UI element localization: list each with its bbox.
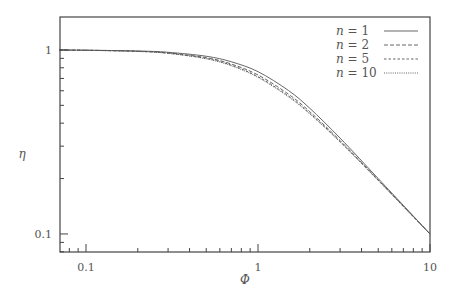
- legend-label-n10: n = 10: [336, 66, 377, 80]
- chart: 0.1110 0.11 Φ η n = 1n = 2n = 5n = 10: [0, 0, 456, 303]
- y-tick-label: 1: [45, 44, 52, 57]
- x-tick-label: 10: [423, 261, 437, 274]
- y-tick-label: 0.1: [35, 228, 53, 241]
- y-axis-label: η: [18, 147, 26, 161]
- x-axis-label: Φ: [240, 273, 250, 287]
- x-tick-label: 0.1: [77, 261, 95, 274]
- x-tick-label: 1: [255, 261, 262, 274]
- plot-frame: [60, 17, 430, 252]
- x-axis-ticks: 0.1110: [69, 244, 437, 274]
- legend-label-n5: n = 5: [336, 52, 369, 66]
- legend: n = 1n = 2n = 5n = 10: [336, 24, 418, 80]
- legend-label-n1: n = 1: [336, 24, 369, 38]
- legend-label-n2: n = 2: [336, 38, 369, 52]
- y-axis-ticks: 0.11: [35, 44, 69, 252]
